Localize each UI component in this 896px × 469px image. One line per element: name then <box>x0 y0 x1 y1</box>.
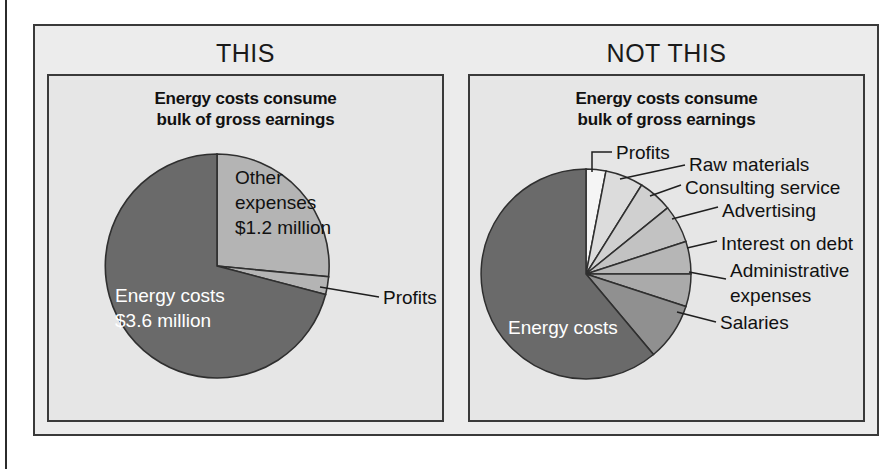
panel-container: THIS Energy costs consume bulk of gross … <box>35 26 877 434</box>
label-other-expenses-line3: $1.2 million <box>235 217 331 238</box>
leader-line-administrative-expenses <box>689 272 726 279</box>
pie-slice-other-expenses <box>217 154 329 277</box>
figure-frame: THIS Energy costs consume bulk of gross … <box>33 24 879 436</box>
chart-title-this: Energy costs consume bulk of gross earni… <box>49 88 442 130</box>
panel-not-this: NOT THIS Energy costs consume bulk of gr… <box>456 26 877 434</box>
chart-box-this: Energy costs consume bulk of gross earni… <box>47 74 444 422</box>
panel-caption-this: THIS <box>47 36 444 70</box>
leader-line-consulting-service <box>650 185 681 196</box>
leader-line-advertising <box>672 207 718 219</box>
panel-this: THIS Energy costs consume bulk of gross … <box>35 26 456 434</box>
pie-slice-profits <box>586 169 606 274</box>
label-raw-materials: Raw materials <box>689 154 809 175</box>
label-administrative-expenses-line2: expenses <box>730 285 811 306</box>
panel-caption-not-this: NOT THIS <box>468 36 865 70</box>
label-other-expenses-line2: expenses <box>235 192 316 213</box>
leader-line-profits <box>592 152 612 172</box>
pie-slice-interest-on-debt <box>586 242 691 275</box>
leader-line-salaries <box>677 312 716 322</box>
label-energy-costs: Energy costs <box>508 317 618 338</box>
leader-line-profits <box>320 287 379 297</box>
pie-slice-advertising <box>586 208 686 274</box>
label-advertising: Advertising <box>722 200 816 221</box>
pie-slice-energy-costs <box>105 154 325 378</box>
chart-title-line2: bulk of gross earnings <box>470 109 863 130</box>
leader-line-interest-on-debt <box>687 241 717 248</box>
figure-root: THIS Energy costs consume bulk of gross … <box>0 0 896 469</box>
label-profits: Profits <box>383 287 437 308</box>
pie-slice-salaries <box>586 274 686 355</box>
pie-slice-consulting-service <box>586 185 668 274</box>
label-interest-on-debt: Interest on debt <box>721 233 854 254</box>
label-energy-costs-line1: Energy costs <box>115 285 225 306</box>
label-administrative-expenses-line1: Administrative <box>730 260 849 281</box>
chart-title-line2: bulk of gross earnings <box>49 109 442 130</box>
label-salaries: Salaries <box>720 312 789 333</box>
chart-title-line1: Energy costs consume <box>154 89 336 108</box>
chart-title-not-this: Energy costs consume bulk of gross earni… <box>470 88 863 130</box>
pie-slice-energy-costs <box>481 169 653 379</box>
chart-title-line1: Energy costs consume <box>575 89 757 108</box>
pie-slice-administrative-expenses <box>586 274 691 307</box>
pie-slice-raw-materials <box>586 171 642 274</box>
label-energy-costs-line2: $3.6 million <box>115 310 211 331</box>
label-profits: Profits <box>616 142 670 163</box>
page-margin-rule <box>5 0 7 469</box>
chart-box-not-this: Energy costs consume bulk of gross earni… <box>468 74 865 422</box>
label-other-expenses-line1: Other <box>235 167 283 188</box>
label-consulting-service: Consulting service <box>685 177 840 198</box>
leader-line-raw-materials <box>620 165 685 179</box>
pie-slice-profits <box>217 266 329 295</box>
